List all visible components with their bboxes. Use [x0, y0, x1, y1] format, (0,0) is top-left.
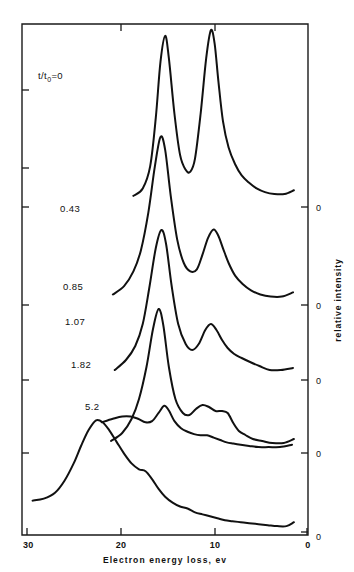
zero-marker-2: 0 — [316, 301, 321, 311]
top-axis-ticks — [121, 24, 215, 31]
right-axis-ticks — [301, 207, 308, 532]
spectrum-curve-043 — [113, 136, 293, 297]
curve-label-182: 1.82 — [71, 359, 91, 370]
zero-marker-1: 0 — [316, 203, 321, 213]
zero-marker-5: 0 — [316, 532, 321, 542]
zero-baseline-labels: 0 0 0 0 0 — [316, 203, 321, 542]
x-tick-label-0: 0 — [305, 540, 310, 550]
plot-frame — [22, 24, 308, 535]
x-tick-labels: 30 20 10 0 — [23, 540, 311, 550]
x-tick-label-10: 10 — [210, 540, 221, 550]
x-tick-label-20: 20 — [116, 540, 127, 550]
x-axis-title: Electron energy loss, ev — [103, 555, 227, 565]
zero-marker-4: 0 — [316, 449, 321, 459]
curve-label-085: 0.85 — [63, 281, 83, 292]
curve-label-52: 5.2 — [85, 401, 99, 412]
curve-label-043: 0.43 — [60, 203, 80, 214]
zero-marker-3: 0 — [316, 376, 321, 386]
spectrum-curve-52 — [33, 420, 294, 527]
spectra-curve-group — [33, 30, 294, 527]
y-axis-title: relative intensity — [333, 258, 343, 341]
x-tick-label-30: 30 — [23, 540, 34, 550]
curve-label-t-over-t0-main: t/t — [38, 70, 47, 81]
curve-label-107: 1.07 — [65, 316, 85, 327]
spectrum-curve-tt00 — [133, 30, 294, 196]
curve-label-t-over-t0: t/t0=0 — [38, 70, 63, 83]
eels-spectra-plot: 30 20 10 0 0 0 0 0 0 t/t0=0 0.43 0.85 1.… — [0, 0, 354, 572]
curve-label-t-over-t0-eq: =0 — [51, 70, 63, 81]
curve-annotations: t/t0=0 0.43 0.85 1.07 1.82 5.2 — [38, 70, 99, 412]
left-axis-ticks — [22, 90, 29, 453]
chart-figure: 30 20 10 0 0 0 0 0 0 t/t0=0 0.43 0.85 1.… — [0, 0, 354, 572]
bottom-axis-ticks — [27, 528, 307, 535]
spectrum-curve-107 — [111, 309, 294, 443]
